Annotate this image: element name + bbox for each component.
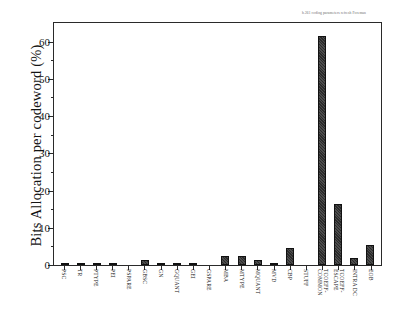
x-tick-label: GBSC [142, 269, 148, 284]
bar-slot [89, 23, 105, 265]
bar [270, 263, 278, 265]
bar-slot [217, 23, 233, 265]
x-label-slot: CBP [282, 268, 298, 321]
x-axis-labels: PSCTRPTYPEPEIPSPAREGBSCGNGQUANTGEIGSPARE… [53, 268, 382, 321]
bar [334, 204, 342, 265]
y-tick-label: 50 [39, 73, 54, 85]
bar [286, 248, 294, 265]
x-tick-label: TCOEFF- ESCAPE [333, 269, 345, 292]
bar [238, 256, 246, 265]
bar-slot [73, 23, 89, 265]
y-tick-label: 30 [39, 147, 54, 159]
bar [77, 263, 85, 265]
x-tick-label: GQUANT [174, 269, 180, 293]
x-tick-label: GSPARE [206, 269, 212, 291]
bar-slot [185, 23, 201, 265]
x-tick-label: GEI [190, 269, 196, 279]
y-tick-label: 40 [39, 110, 54, 122]
x-label-slot: MVD [266, 268, 282, 321]
x-tick-label: INTRA DC [352, 269, 358, 296]
bar-slot [121, 23, 137, 265]
bar [109, 263, 117, 265]
bar [61, 263, 69, 265]
x-tick-label: PSPARE [126, 269, 132, 290]
x-label-slot: GQUANT [169, 268, 185, 321]
x-tick-label: TCOEFF- COMMON [317, 269, 329, 295]
x-tick-label: MVD [271, 269, 277, 282]
x-label-slot: TCOEFF- ESCAPE [331, 268, 347, 321]
bar-slot [266, 23, 282, 265]
y-tick-label: 60 [39, 36, 54, 48]
x-label-slot: STUFF [298, 268, 314, 321]
x-label-slot: PSPARE [121, 268, 137, 321]
bar-slot [234, 23, 250, 265]
chart-figure: Bits Allocation per codeword (%) h.261 c… [0, 0, 399, 321]
bar-slot [282, 23, 298, 265]
x-label-slot: TCOEFF- COMMON [315, 268, 331, 321]
x-label-slot: MBA [218, 268, 234, 321]
bar-slot [169, 23, 185, 265]
x-tick-label: CBP [287, 269, 293, 280]
x-label-slot: PEI [104, 268, 120, 321]
x-tick-label: PSC [61, 269, 67, 279]
x-tick-label: EOB [368, 269, 374, 281]
corner-annotation: h.261 coding parameters refresh Foreman [302, 11, 366, 16]
x-label-slot: MQUANT [250, 268, 266, 321]
bar-slot [346, 23, 362, 265]
y-tick-label: 20 [39, 185, 54, 197]
x-label-slot: MTYPE [234, 268, 250, 321]
x-tick-label: PEI [110, 269, 116, 278]
bar-slot [153, 23, 169, 265]
bar [254, 260, 262, 265]
y-tick-label: 10 [39, 222, 54, 234]
bar-slot [362, 23, 378, 265]
x-label-slot: PSC [56, 268, 72, 321]
y-axis-title: Bits Allocation per codeword (%) [28, 16, 45, 276]
x-tick-label: GN [158, 269, 164, 277]
x-label-slot: GEI [185, 268, 201, 321]
x-label-slot: INTRA DC [347, 268, 363, 321]
x-tick-label: PTYPE [93, 269, 99, 287]
x-label-slot: TR [72, 268, 88, 321]
plot-area: 0102030405060 [53, 22, 382, 266]
bar-slot [330, 23, 346, 265]
bar-slot [201, 23, 217, 265]
x-label-slot: PTYPE [88, 268, 104, 321]
bar [318, 36, 326, 265]
x-tick-label: STUFF [303, 269, 309, 286]
bar [221, 256, 229, 265]
bar [366, 245, 374, 265]
bar-slot [314, 23, 330, 265]
x-tick-label: MBA [223, 269, 229, 282]
bar-slot [105, 23, 121, 265]
x-label-slot: GSPARE [201, 268, 217, 321]
bar [93, 263, 101, 265]
bar-slot [298, 23, 314, 265]
bar [350, 258, 358, 265]
bar-slot [57, 23, 73, 265]
bar [157, 263, 165, 265]
x-tick-label: MQUANT [255, 269, 261, 294]
bar-slot [250, 23, 266, 265]
bar-slot [137, 23, 153, 265]
bar [189, 263, 197, 265]
bar [173, 263, 181, 265]
x-label-slot: EOB [363, 268, 379, 321]
bar-series [54, 23, 381, 265]
bar [141, 260, 149, 265]
x-label-slot: GN [153, 268, 169, 321]
x-tick-label: MTYPE [239, 269, 245, 288]
x-tick-label: TR [77, 269, 83, 276]
x-label-slot: GBSC [137, 268, 153, 321]
